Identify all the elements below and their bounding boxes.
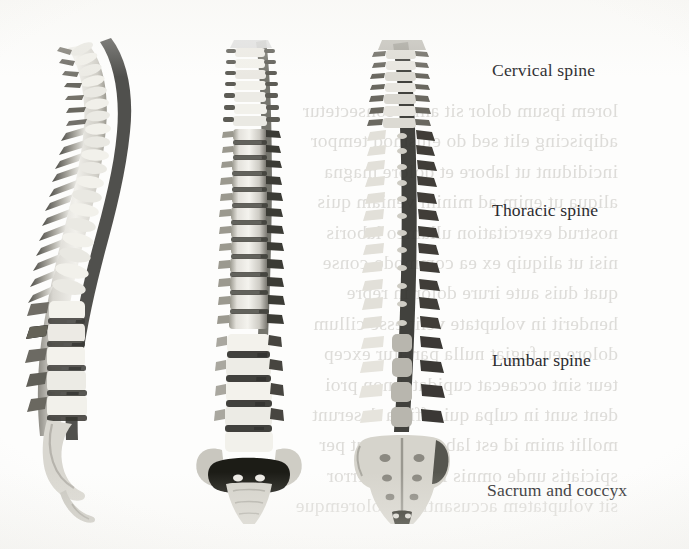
spine-specimen-lateral [16, 26, 196, 524]
label-lumbar-spine: Lumbar spine [492, 350, 591, 370]
spine-specimen-posterior [330, 26, 490, 524]
label-sacrum-and-coccyx: Sacrum and coccyx [487, 480, 627, 500]
figure-page: lorem ipsum dolor sit amet consectetur a… [0, 0, 689, 549]
label-thoracic-spine: Thoracic spine [492, 200, 598, 220]
label-cervical-spine: Cervical spine [492, 60, 595, 80]
spine-specimen-anterior [186, 26, 336, 524]
